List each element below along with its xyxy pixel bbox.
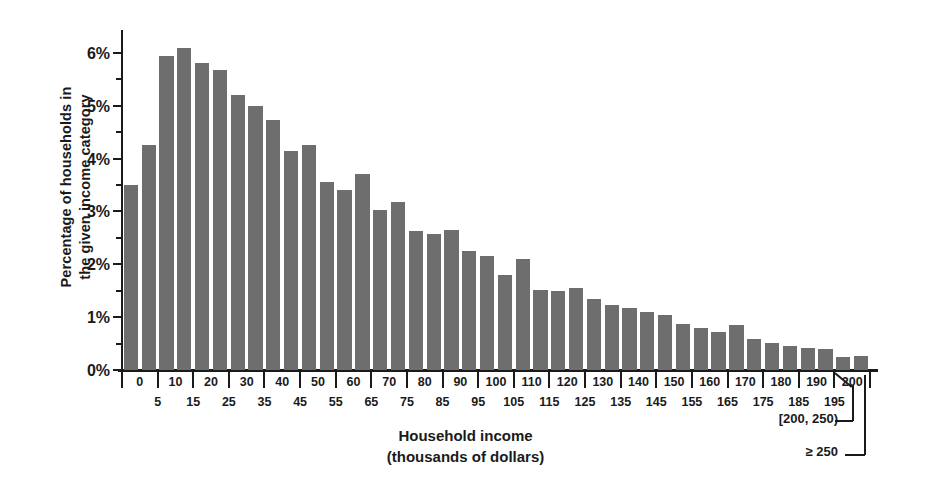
histogram-chart: Percentage of households in the given in… — [0, 0, 931, 491]
bar — [587, 299, 601, 370]
x-tick-label-lower: 55 — [329, 395, 343, 409]
x-tick-label-lower: 155 — [681, 395, 702, 409]
x-tick-label-lower: 165 — [717, 395, 738, 409]
bar — [213, 70, 227, 370]
bar — [783, 346, 797, 370]
y-tick-major — [113, 105, 122, 107]
bar — [729, 325, 743, 370]
bar — [142, 145, 156, 370]
x-tick-major — [477, 372, 479, 388]
bar — [266, 120, 280, 370]
x-tick-major — [869, 372, 871, 388]
bar — [159, 56, 173, 371]
y-tick-major — [113, 263, 122, 265]
x-tick-label-upper: 60 — [347, 375, 361, 389]
x-tick-major — [548, 372, 550, 388]
x-tick-major — [228, 372, 230, 388]
y-axis-title-container: Percentage of households in the given in… — [18, 0, 78, 400]
y-tick-label: 1% — [87, 309, 110, 327]
x-tick-label-lower: 35 — [258, 395, 272, 409]
bar — [320, 182, 334, 370]
x-tick-label-upper: 20 — [204, 375, 218, 389]
y-tick-minor — [116, 290, 122, 292]
x-tick-label-lower: 145 — [646, 395, 667, 409]
y-tick-major — [113, 369, 122, 371]
x-tick-label-lower: 175 — [753, 395, 774, 409]
bar — [498, 275, 512, 370]
x-tick-label-upper: 90 — [453, 375, 467, 389]
x-tick-major — [192, 372, 194, 388]
x-tick-major — [762, 372, 764, 388]
x-tick-label-lower: 15 — [186, 395, 200, 409]
x-tick-major — [620, 372, 622, 388]
x-tick-label-upper: 40 — [275, 375, 289, 389]
y-tick-label: 2% — [87, 256, 110, 274]
x-tick-label-lower: 185 — [788, 395, 809, 409]
bar — [569, 288, 583, 370]
y-tick-minor — [116, 78, 122, 80]
x-tick-label-lower: 125 — [575, 395, 596, 409]
x-tick-major — [655, 372, 657, 388]
y-tick-label: 0% — [87, 362, 110, 380]
bar — [694, 328, 708, 370]
bar — [801, 348, 815, 370]
x-tick-label-lower: 115 — [539, 395, 559, 409]
x-tick-label-upper: 190 — [806, 375, 827, 389]
x-tick-label-upper: 70 — [382, 375, 396, 389]
bar — [711, 332, 725, 370]
bar — [248, 106, 262, 370]
y-tick-minor — [116, 184, 122, 186]
x-tick-major — [335, 372, 337, 388]
y-tick-minor — [116, 343, 122, 345]
bar — [836, 357, 850, 370]
bar — [854, 356, 868, 370]
y-tick-label: 6% — [87, 45, 110, 63]
bar — [409, 231, 423, 370]
bar — [355, 174, 369, 370]
x-tick-label-lower: 85 — [436, 395, 450, 409]
bar — [551, 291, 565, 370]
x-axis-title: Household income (thousands of dollars) — [0, 425, 931, 467]
bar — [818, 349, 832, 370]
bar — [676, 324, 690, 371]
bar — [462, 251, 476, 370]
y-tick-label: 5% — [87, 98, 110, 116]
x-tick-label-upper: 100 — [486, 375, 507, 389]
x-tick-major — [299, 372, 301, 388]
x-tick-label-upper: 160 — [699, 375, 720, 389]
x-tick-major — [157, 372, 159, 388]
x-tick-label-upper: 10 — [168, 375, 182, 389]
y-tick-label: 4% — [87, 151, 110, 169]
y-tick-major — [113, 52, 122, 54]
x-tick-label-lower: 95 — [471, 395, 485, 409]
x-tick-label-upper: 120 — [557, 375, 578, 389]
x-tick-major — [442, 372, 444, 388]
x-tick-label-lower: 5 — [154, 395, 161, 409]
bar — [444, 230, 458, 370]
bar — [622, 308, 636, 370]
y-tick-major — [113, 316, 122, 318]
x-tick-label-upper: 50 — [311, 375, 325, 389]
bar — [747, 339, 761, 370]
y-tick-label: 3% — [87, 203, 110, 221]
bar — [533, 290, 547, 370]
x-tick-major — [406, 372, 408, 388]
x-tick-label-lower: 195 — [824, 395, 845, 409]
bar — [284, 151, 298, 370]
x-tick-label-upper: 130 — [592, 375, 613, 389]
y-tick-major — [113, 210, 122, 212]
x-tick-major — [513, 372, 515, 388]
x-tick-major — [584, 372, 586, 388]
x-tick-label-upper: 150 — [664, 375, 685, 389]
x-tick-label-upper: 0 — [136, 375, 143, 389]
bar — [391, 202, 405, 370]
annotation-leader-vertical-first — [852, 385, 854, 421]
bar — [640, 312, 654, 370]
y-tick-minor — [116, 237, 122, 239]
bar — [124, 185, 138, 370]
bar — [373, 210, 387, 370]
bar — [337, 190, 351, 370]
x-tick-label-lower: 65 — [364, 395, 378, 409]
y-tick-minor — [116, 131, 122, 133]
x-tick-major — [263, 372, 265, 388]
